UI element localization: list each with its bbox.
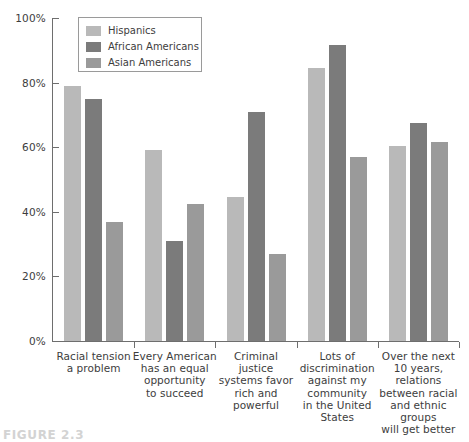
legend-entry: Asian Americans [86,55,201,70]
bar [269,254,286,341]
y-tick-label: 80% [2,78,46,88]
legend-label-hispanics: Hispanics [108,25,156,36]
bar [145,150,162,341]
y-tick-label: 100% [2,13,46,23]
x-category-label: Over the next 10 years, relations betwee… [370,350,467,435]
bar [166,241,183,341]
bar [389,146,406,341]
bar [248,112,265,341]
bar [350,157,367,341]
y-tick-label: 0% [2,336,46,346]
bar [64,86,81,341]
x-tick-mark [378,342,379,348]
legend-entry: Hispanics [86,23,201,38]
legend-label-asian-americans: Asian Americans [108,57,191,68]
x-tick-mark [134,342,135,348]
bar [106,222,123,342]
bar [410,123,427,341]
y-tick-label: 20% [2,271,46,281]
x-tick-mark [459,342,460,348]
x-tick-mark [297,342,298,348]
legend-label-african-americans: African Americans [108,41,199,52]
x-axis-line [52,341,459,342]
legend-swatch-asian-americans [86,58,101,68]
x-tick-mark [215,342,216,348]
y-tick-label: 40% [2,207,46,217]
bar [308,68,325,341]
bar [187,204,204,341]
legend-entry: African Americans [86,39,201,54]
bar [85,99,102,341]
bar [329,45,346,341]
legend-swatch-african-americans [86,42,101,52]
legend-swatch-hispanics [86,26,101,36]
bar [227,197,244,341]
bar [431,142,448,341]
chart-legend: Hispanics African Americans Asian Americ… [78,17,202,72]
figure-container: 0%20%40%60%80%100% Racial tension a prob… [0,0,469,442]
y-tick-label: 60% [2,142,46,152]
figure-caption: FIGURE 2.3 [3,428,84,442]
y-tick-mark [53,341,59,342]
